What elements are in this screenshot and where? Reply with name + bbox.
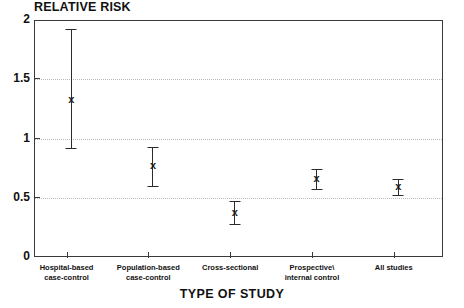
x-tick-mark [230, 252, 231, 258]
x-tick-label-line: Prospective\ [285, 263, 340, 273]
x-tick-label: All studies [375, 263, 413, 273]
error-bar-cap-lower [148, 186, 159, 187]
y-tick-mark [34, 138, 40, 139]
x-tick-mark [394, 252, 395, 258]
x-tick-label-line: case-control [40, 273, 94, 283]
x-tick-mark [67, 252, 68, 258]
x-tick-label: Hospital-basedcase-control [40, 263, 94, 283]
gridline [35, 139, 442, 140]
x-tick-label-line: case-control [117, 273, 180, 283]
y-tick-label: 0.5 [13, 190, 30, 204]
x-tick-label: Population-basedcase-control [117, 263, 180, 283]
error-bar-cap-lower [393, 195, 404, 196]
error-bar-line [71, 29, 72, 148]
x-tick-label-line: Cross-sectional [202, 263, 258, 273]
data-point-marker: x [68, 94, 74, 105]
x-tick-label-line: Hospital-based [40, 263, 94, 273]
x-tick-mark [148, 252, 149, 258]
gridline [35, 79, 442, 80]
y-axis-title: RELATIVE RISK [34, 0, 131, 14]
x-tick-label-line: All studies [375, 263, 413, 273]
data-point-marker: x [314, 172, 320, 183]
y-tick-mark [34, 197, 40, 198]
data-point-marker: x [395, 180, 401, 191]
error-bar-cap-upper [229, 201, 240, 202]
error-bar-cap-lower [311, 189, 322, 190]
x-tick-mark [312, 252, 313, 258]
error-bar-cap-lower [229, 224, 240, 225]
error-bar-cap-upper [66, 29, 77, 30]
x-tick-label-line: Population-based [117, 263, 180, 273]
relative-risk-chart: RELATIVE RISK 00.511.52 Hospital-basedca… [0, 0, 464, 308]
x-axis-title: TYPE OF STUDY [0, 287, 464, 301]
y-tick-label: 1.5 [13, 71, 30, 85]
y-tick-label: 0 [23, 249, 30, 263]
gridline [35, 198, 442, 199]
x-tick-label-line: internal control [285, 273, 340, 283]
x-tick-label: Prospective\internal control [285, 263, 340, 283]
y-tick-mark [34, 78, 40, 79]
data-point-marker: x [150, 159, 156, 170]
error-bar-cap-upper [148, 147, 159, 148]
plot-area [34, 20, 443, 257]
y-tick-label: 2 [23, 12, 30, 26]
data-point-marker: x [232, 206, 238, 217]
x-tick-label: Cross-sectional [202, 263, 258, 273]
y-tick-label: 1 [23, 131, 30, 145]
error-bar-cap-lower [66, 148, 77, 149]
